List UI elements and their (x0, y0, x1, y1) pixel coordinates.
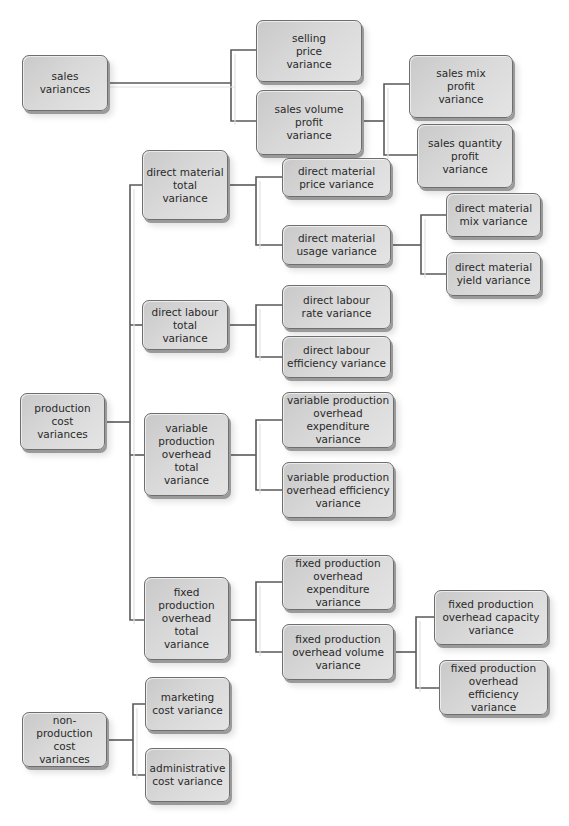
node-variable-production-overhead-total-variance: variable production overhead total varia… (144, 413, 229, 496)
variance-tree-diagram: sales variances selling price variance s… (0, 0, 569, 826)
node-direct-labour-efficiency-variance: direct labour efficiency variance (282, 336, 391, 378)
node-direct-labour-total-variance: direct labour total variance (142, 300, 228, 350)
node-variable-production-overhead-efficiency-variance: variable production overhead efficiency … (282, 462, 394, 518)
node-sales-volume-profit-variance: sales volume profit variance (256, 90, 362, 155)
node-marketing-cost-variance: marketing cost variance (145, 677, 230, 731)
node-selling-price-variance: selling price variance (256, 20, 362, 82)
node-direct-material-price-variance: direct material price variance (282, 158, 391, 197)
node-fixed-production-overhead-expenditure-variance: fixed production overhead expenditure va… (282, 555, 394, 610)
node-fixed-production-overhead-volume-variance: fixed production overhead volume varianc… (282, 624, 394, 680)
node-variable-production-overhead-expenditure-variance: variable production overhead expenditure… (282, 392, 394, 448)
node-administrative-cost-variance: administrative cost variance (145, 748, 230, 802)
node-production-cost-variances: production cost variances (20, 393, 105, 450)
node-direct-material-usage-variance: direct material usage variance (282, 225, 391, 265)
node-direct-material-mix-variance: direct material mix variance (446, 193, 541, 237)
node-non-production-cost-variances: non-production cost variances (22, 712, 107, 767)
node-sales-mix-profit-variance: sales mix profit variance (409, 55, 513, 118)
node-fixed-production-overhead-efficiency-variance: fixed production overhead efficiency var… (439, 660, 548, 715)
node-fixed-production-overhead-total-variance: fixed production overhead total variance (144, 577, 229, 660)
node-direct-labour-rate-variance: direct labour rate variance (282, 285, 391, 329)
node-fixed-production-overhead-capacity-variance: fixed production overhead capacity varia… (434, 590, 548, 645)
node-sales-quantity-profit-variance: sales quantity profit variance (417, 124, 513, 188)
node-direct-material-total-variance: direct material total variance (142, 150, 228, 220)
node-direct-material-yield-variance: direct material yield variance (446, 252, 541, 296)
node-sales-variances: sales variances (22, 55, 108, 111)
